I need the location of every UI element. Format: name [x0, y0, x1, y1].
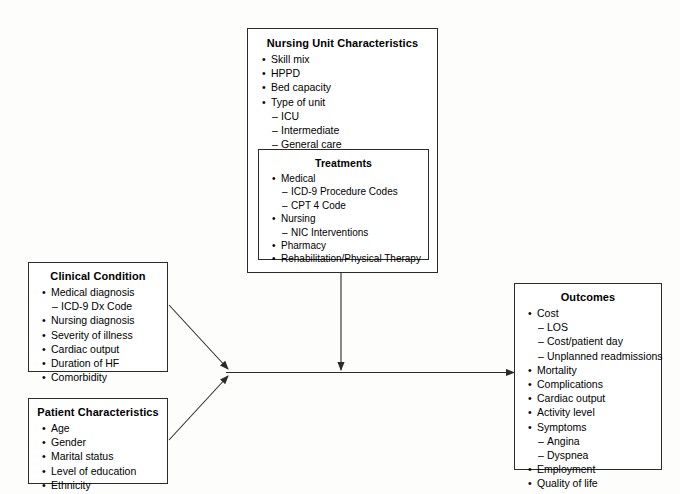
dash-marker-icon: – [538, 434, 547, 448]
bullet-marker-icon: • [272, 252, 281, 265]
outcomes-list: •Cost–LOS–Cost/patient day–Unplanned rea… [522, 306, 654, 491]
list-item: –NIC Interventions [266, 226, 421, 239]
list-item-label: ICD-9 Procedure Codes [291, 186, 398, 197]
treatments-box[interactable]: Treatments •Medical–ICD-9 Procedure Code… [258, 149, 429, 260]
list-item: •Marital status [36, 449, 160, 463]
clinical-condition-list: •Medical diagnosis–ICD-9 Dx Code•Nursing… [36, 285, 160, 384]
bullet-marker-icon: • [272, 239, 281, 252]
list-item-label: Gender [51, 436, 86, 448]
list-item-label: Ethnicity [51, 479, 91, 491]
list-item-label: Pharmacy [281, 240, 326, 251]
list-item: •Medical diagnosis [36, 285, 160, 299]
treatments-title: Treatments [266, 156, 421, 170]
bullet-marker-icon: • [528, 420, 537, 434]
nursing-unit-characteristics-box[interactable]: Nursing Unit Characteristics •Skill mix•… [247, 28, 438, 273]
outcomes-box[interactable]: Outcomes •Cost–LOS–Cost/patient day–Unpl… [514, 283, 662, 470]
list-item-label: Level of education [51, 465, 136, 477]
list-item: •Activity level [522, 405, 654, 419]
list-item-label: Nursing [281, 213, 315, 224]
list-item: •Severity of illness [36, 328, 160, 342]
dash-marker-icon: – [52, 299, 61, 313]
list-item: –Angina [522, 434, 654, 448]
list-item-label: Complications [537, 378, 603, 390]
arrow-clinical-to-junction [169, 305, 228, 369]
list-item: •Bed capacity [256, 80, 429, 94]
list-item-label: Bed capacity [271, 81, 331, 93]
list-item: •Age [36, 421, 160, 435]
patient-characteristics-box[interactable]: Patient Characteristics •Age•Gender•Mari… [28, 398, 168, 484]
list-item: •Complications [522, 377, 654, 391]
bullet-marker-icon: • [272, 172, 281, 185]
patient-characteristics-list: •Age•Gender•Marital status•Level of educ… [36, 421, 160, 492]
list-item: •Mortality [522, 363, 654, 377]
list-item-label: Cardiac output [537, 392, 605, 404]
list-item: –CPT 4 Code [266, 199, 421, 212]
patient-characteristics-title: Patient Characteristics [36, 405, 160, 419]
list-item-label: Symptoms [537, 421, 587, 433]
treatments-list: •Medical–ICD-9 Procedure Codes–CPT 4 Cod… [266, 172, 421, 266]
list-item-label: HPPD [271, 67, 300, 79]
bullet-marker-icon: • [42, 421, 51, 435]
list-item: •Type of unit [256, 95, 429, 109]
bullet-marker-icon: • [528, 377, 537, 391]
dash-marker-icon: – [272, 123, 281, 137]
list-item-label: NIC Interventions [291, 227, 368, 238]
list-item-label: Medical diagnosis [51, 286, 134, 298]
bullet-marker-icon: • [42, 435, 51, 449]
list-item-label: Dyspnea [547, 449, 588, 461]
list-item-label: Skill mix [271, 53, 310, 65]
list-item: •Nursing [266, 212, 421, 225]
list-item: •Ethnicity [36, 478, 160, 492]
list-item: –Dyspnea [522, 448, 654, 462]
bullet-marker-icon: • [262, 80, 271, 94]
dash-marker-icon: – [282, 199, 291, 212]
list-item: •Pharmacy [266, 239, 421, 252]
list-item-label: Quality of life [537, 477, 598, 489]
bullet-marker-icon: • [42, 328, 51, 342]
list-item-label: Cardiac output [51, 343, 119, 355]
list-item-label: ICD-9 Dx Code [61, 300, 132, 312]
dash-marker-icon: – [538, 334, 547, 348]
list-item: •Gender [36, 435, 160, 449]
list-item-label: Employment [537, 463, 595, 475]
list-item: •Employment [522, 462, 654, 476]
bullet-marker-icon: • [42, 356, 51, 370]
list-item: •HPPD [256, 66, 429, 80]
list-item: –LOS [522, 320, 654, 334]
dash-marker-icon: – [538, 349, 547, 363]
bullet-marker-icon: • [42, 285, 51, 299]
list-item-label: Severity of illness [51, 329, 133, 341]
dash-marker-icon: – [538, 320, 547, 334]
list-item-label: Age [51, 422, 70, 434]
list-item: •Symptoms [522, 420, 654, 434]
list-item: •Comorbidity [36, 370, 160, 384]
dash-marker-icon: – [282, 226, 291, 239]
list-item: –ICU [256, 109, 429, 123]
bullet-marker-icon: • [528, 306, 537, 320]
outcomes-title: Outcomes [522, 290, 654, 304]
bullet-marker-icon: • [528, 391, 537, 405]
list-item-label: Type of unit [271, 96, 325, 108]
bullet-marker-icon: • [528, 405, 537, 419]
list-item-label: CPT 4 Code [291, 200, 346, 211]
list-item-label: Intermediate [281, 124, 339, 136]
list-item-label: LOS [547, 321, 568, 333]
list-item: •Quality of life [522, 476, 654, 490]
list-item: –ICD-9 Procedure Codes [266, 185, 421, 198]
list-item-label: Nursing diagnosis [51, 314, 134, 326]
dash-marker-icon: – [538, 448, 547, 462]
clinical-condition-box[interactable]: Clinical Condition •Medical diagnosis–IC… [28, 262, 168, 372]
dash-marker-icon: – [282, 185, 291, 198]
bullet-marker-icon: • [42, 370, 51, 384]
bullet-marker-icon: • [262, 66, 271, 80]
nursing-unit-characteristics-title: Nursing Unit Characteristics [256, 36, 429, 50]
bullet-marker-icon: • [42, 342, 51, 356]
list-item-label: Marital status [51, 450, 113, 462]
bullet-marker-icon: • [262, 52, 271, 66]
list-item: •Rehabilitation/Physical Therapy [266, 252, 421, 265]
list-item: –Unplanned readmissions [522, 349, 654, 363]
list-item: •Medical [266, 172, 421, 185]
bullet-marker-icon: • [528, 476, 537, 490]
list-item: •Skill mix [256, 52, 429, 66]
list-item: •Nursing diagnosis [36, 313, 160, 327]
